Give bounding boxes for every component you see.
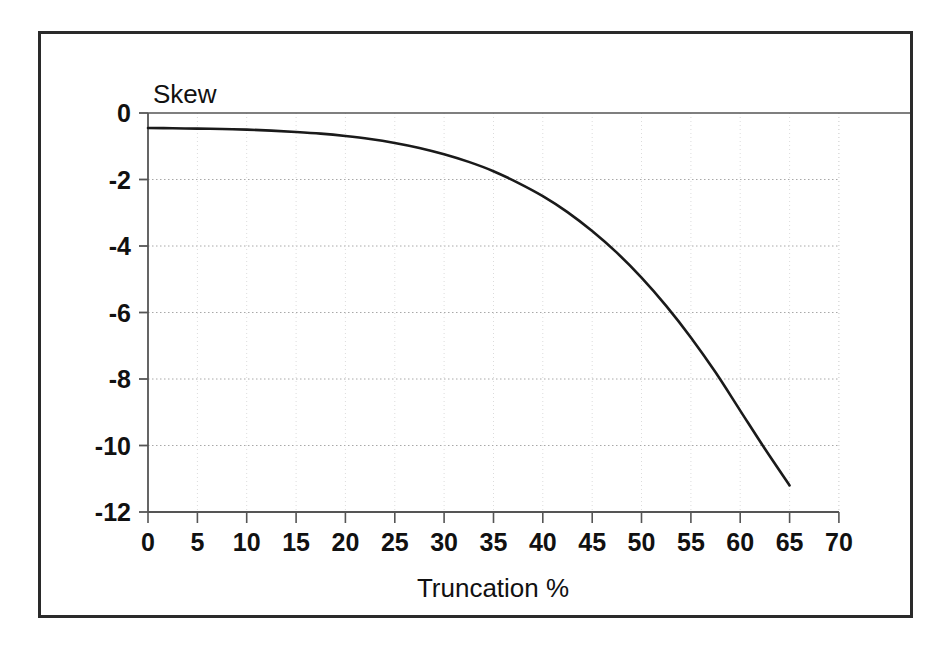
- x-tick-label-40: 40: [529, 528, 557, 556]
- x-tick-label-45: 45: [578, 528, 606, 556]
- y-tick-label-0: 0: [117, 99, 131, 127]
- vertical-gridlines: [197, 113, 839, 512]
- x-tick-label-60: 60: [726, 528, 754, 556]
- x-tick-label-35: 35: [480, 528, 508, 556]
- y-tick-label--8: -8: [109, 365, 131, 393]
- y-axis-title: Skew: [153, 79, 217, 109]
- x-tick-label-65: 65: [776, 528, 804, 556]
- y-tick-label--4: -4: [109, 232, 131, 260]
- y-tick-label--6: -6: [109, 299, 131, 327]
- x-tick-label-55: 55: [677, 528, 705, 556]
- x-tick-label-70: 70: [825, 528, 853, 556]
- x-tick-label-15: 15: [282, 528, 310, 556]
- y-axis-ticks: [139, 113, 148, 512]
- y-tick-label--2: -2: [109, 166, 131, 194]
- x-tick-label-30: 30: [430, 528, 458, 556]
- x-tick-label-5: 5: [190, 528, 204, 556]
- skew-curve: [148, 128, 790, 485]
- x-tick-label-25: 25: [381, 528, 409, 556]
- y-tick-labels: 0 -2 -4 -6 -8 -10 -12: [95, 99, 131, 526]
- chart-frame: 0 -2 -4 -6 -8 -10 -12 0 5 10 15 20 25 30…: [38, 31, 913, 618]
- x-tick-label-10: 10: [233, 528, 261, 556]
- x-axis-ticks: [148, 512, 839, 523]
- y-tick-label--10: -10: [95, 432, 131, 460]
- skew-vs-truncation-chart: 0 -2 -4 -6 -8 -10 -12 0 5 10 15 20 25 30…: [41, 34, 910, 615]
- x-tick-labels: 0 5 10 15 20 25 30 35 40 45 50 55 60 65 …: [141, 528, 853, 556]
- x-tick-label-50: 50: [628, 528, 656, 556]
- y-tick-label--12: -12: [95, 498, 131, 526]
- figure-container: 0 -2 -4 -6 -8 -10 -12 0 5 10 15 20 25 30…: [0, 0, 950, 646]
- x-tick-label-0: 0: [141, 528, 155, 556]
- x-axis-title: Truncation %: [417, 573, 569, 603]
- x-tick-label-20: 20: [331, 528, 359, 556]
